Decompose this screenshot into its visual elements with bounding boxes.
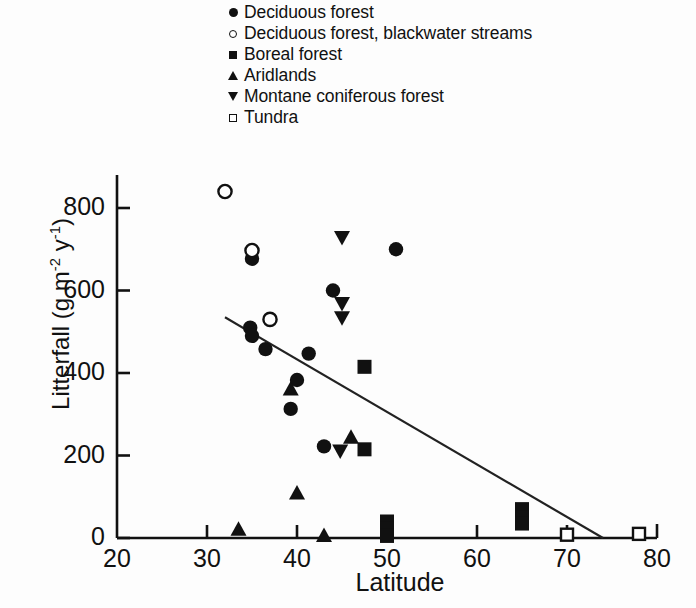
data-point <box>317 439 331 453</box>
y-label-text: ) <box>47 218 74 226</box>
y-axis-label: Litterfall (g m-2 y-1) <box>47 174 75 454</box>
plot-canvas <box>0 0 696 608</box>
data-point <box>289 485 305 500</box>
y-label-text: Litterfall (g m <box>47 271 74 410</box>
regression-trendline <box>225 317 603 538</box>
x-axis-label: Latitude <box>117 568 683 597</box>
data-point <box>561 529 573 541</box>
y-label-text: y <box>47 239 74 258</box>
series-square-filled <box>358 360 530 543</box>
data-point <box>258 342 272 356</box>
data-point <box>358 360 372 374</box>
data-point <box>245 244 258 257</box>
data-point <box>334 297 350 312</box>
data-point <box>326 283 340 297</box>
data-point <box>316 527 332 542</box>
data-point <box>284 402 298 416</box>
y-label-exponent: -2 <box>47 258 63 271</box>
data-point <box>263 313 276 326</box>
data-point <box>343 429 359 444</box>
series-circle-open <box>218 185 276 326</box>
data-point <box>515 517 529 531</box>
data-point <box>633 528 645 540</box>
plot-area: 0200400600800 20304050607080 Litterfall … <box>0 0 696 608</box>
data-point <box>332 445 348 460</box>
y-label-exponent: -1 <box>47 226 63 239</box>
data-point <box>389 242 403 256</box>
data-point <box>218 185 231 198</box>
data-point <box>245 329 259 343</box>
series-circle-filled <box>243 242 403 454</box>
series-triangle-down <box>332 231 350 459</box>
litterfall-latitude-chart: Deciduous forestDeciduous forest, blackw… <box>0 0 696 608</box>
data-point <box>380 529 394 543</box>
data-point <box>334 311 350 326</box>
data-point <box>334 231 350 246</box>
data-point <box>302 346 316 360</box>
data-point <box>231 521 247 536</box>
data-point <box>358 442 372 456</box>
